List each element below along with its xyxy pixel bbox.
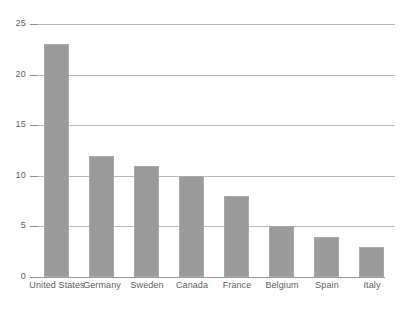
y-axis-label-10: 10 [0, 170, 26, 180]
y-tick-0 [30, 277, 38, 278]
bar-belgium [269, 226, 294, 277]
y-tick-25 [30, 24, 38, 25]
y-tick-15 [30, 125, 38, 126]
y-axis-label-0: 0 [0, 271, 26, 281]
x-axis-label-italy: Italy [343, 280, 401, 291]
y-tick-20 [30, 75, 38, 76]
x-axis-line [38, 277, 385, 278]
bar-spain [314, 237, 339, 277]
y-tick-5 [30, 226, 38, 227]
y-tick-10 [30, 176, 38, 177]
bar-series [38, 24, 395, 277]
y-axis-label-20: 20 [0, 69, 26, 79]
x-axis: United States Germany Sweden Canada Fran… [38, 280, 395, 314]
bar-canada [179, 176, 204, 277]
y-axis-label-15: 15 [0, 119, 26, 129]
y-axis-label-5: 5 [0, 220, 26, 230]
y-axis-label-25: 25 [0, 18, 26, 28]
bar-italy [359, 247, 384, 277]
bar-sweden [134, 166, 159, 277]
bar-germany [89, 156, 114, 277]
bar-france [224, 196, 249, 277]
bar-chart: 25 20 15 10 5 0 United States Germany Sw… [0, 0, 413, 316]
bar-united-states [44, 44, 69, 277]
